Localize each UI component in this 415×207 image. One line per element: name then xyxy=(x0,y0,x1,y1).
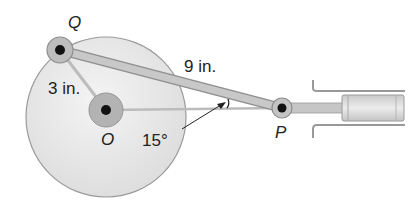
guide-bottom xyxy=(313,125,405,138)
guide-top xyxy=(313,80,405,91)
label-p: P xyxy=(275,124,286,141)
label-radius: 3 in. xyxy=(48,80,80,97)
label-o: O xyxy=(101,131,114,148)
label-angle: 15° xyxy=(142,132,168,149)
piston-cylinder xyxy=(342,95,404,121)
crank-diagram xyxy=(0,0,415,207)
label-q: Q xyxy=(68,14,81,31)
angle-leader xyxy=(182,103,224,129)
angle-arc xyxy=(227,99,229,108)
label-rod-length: 9 in. xyxy=(184,58,216,75)
